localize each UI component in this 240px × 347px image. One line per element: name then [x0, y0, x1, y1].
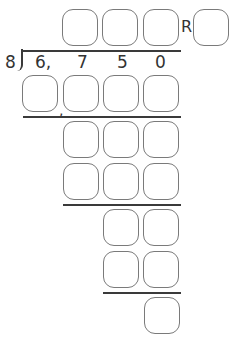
quotient-digit-2-box[interactable]: [102, 9, 138, 46]
remainder-box[interactable]: [193, 9, 229, 46]
step2-difference-digit-3-box[interactable]: [143, 121, 179, 158]
step2-product-digit-3-box[interactable]: [143, 163, 179, 200]
step1-product-digit-1-box[interactable]: [22, 75, 58, 112]
subtraction-line-1: [23, 116, 181, 118]
step3-difference-digit-2-box[interactable]: [143, 209, 179, 246]
subtraction-line-3: [103, 292, 181, 294]
step3-product-digit-2-box[interactable]: [143, 251, 179, 288]
dividend-digit-4: 0: [155, 52, 166, 72]
step3-difference-digit-1-box[interactable]: [103, 209, 139, 246]
subtraction-line-2: [63, 204, 181, 206]
step2-difference-digit-2-box[interactable]: [103, 121, 139, 158]
division-bracket: [17, 49, 23, 71]
step2-product-digit-2-box[interactable]: [103, 163, 139, 200]
quotient-digit-1-box[interactable]: [62, 9, 98, 46]
dividend-digit-3: 5: [117, 52, 128, 72]
step1-product-digit-4-box[interactable]: [143, 75, 179, 112]
divisor: 8: [5, 52, 16, 72]
step2-difference-digit-1-box[interactable]: [63, 121, 99, 158]
dividend-digit-2: 7: [77, 52, 88, 72]
remainder-label: R: [181, 17, 192, 37]
step3-product-digit-1-box[interactable]: [103, 251, 139, 288]
step2-product-digit-1-box[interactable]: [63, 163, 99, 200]
quotient-digit-3-box[interactable]: [143, 9, 179, 46]
step1-product-digit-2-box[interactable]: [63, 75, 99, 112]
dividend-digit-1: 6,: [35, 52, 51, 72]
final-remainder-box[interactable]: [144, 297, 180, 334]
step1-product-digit-3-box[interactable]: [103, 75, 139, 112]
